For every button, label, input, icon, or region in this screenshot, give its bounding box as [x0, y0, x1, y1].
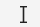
- screen-region: [0, 0, 40, 27]
- text-cursor-icon: [19, 5, 28, 24]
